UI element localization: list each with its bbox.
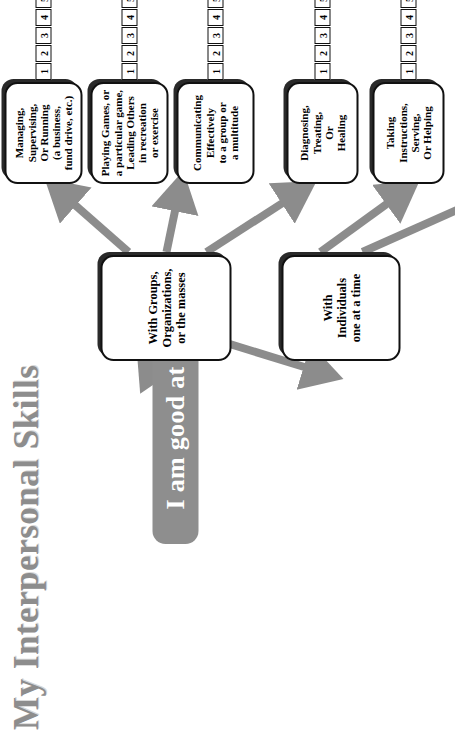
skill-node-managing: Managing,Supervising,Or Running(a busine… <box>4 82 82 184</box>
skill-communicating-label: CommunicatingEffectivelyto a group ora m… <box>190 91 239 175</box>
rating-cell-diagnosing-1[interactable]: 1 <box>314 63 330 80</box>
root-node-label: I am good at <box>160 367 190 510</box>
rating-cell-managing-4[interactable]: 4 <box>35 9 51 26</box>
rating-scale-taking-instructions[interactable]: 1234567 <box>400 0 416 80</box>
rating-cell-managing-1[interactable]: 1 <box>35 63 51 80</box>
rating-cell-playing-games-2[interactable]: 2 <box>121 45 137 62</box>
rating-cell-playing-games-5[interactable]: 5 <box>121 0 137 8</box>
rating-cell-diagnosing-3[interactable]: 3 <box>314 27 330 44</box>
skill-node-communicating: CommunicatingEffectivelyto a group ora m… <box>176 82 254 184</box>
rating-cell-taking-instructions-5[interactable]: 5 <box>400 0 416 8</box>
skill-diagnosing-label: Diagnosing,Treating,OrHealing <box>297 101 346 164</box>
skill-node-taking-instructions: TakingInstructions,Serving,Or Helping <box>372 82 444 184</box>
rating-cell-diagnosing-2[interactable]: 2 <box>314 45 330 62</box>
rating-scale-playing-games[interactable]: 1234567 <box>121 0 137 80</box>
rating-cell-taking-instructions-3[interactable]: 3 <box>400 27 416 44</box>
rating-scale-diagnosing[interactable]: 1234567 <box>314 0 330 80</box>
rating-cell-playing-games-3[interactable]: 3 <box>121 27 137 44</box>
skill-node-playing-games: Playing Games, ora particular game,Leadi… <box>90 82 168 184</box>
diagram-canvas: My Interpersonal Skills I am good at Wit… <box>0 0 455 744</box>
rating-cell-communicating-2[interactable]: 2 <box>207 45 223 62</box>
page-title: My Interpersonal Skills <box>6 365 46 730</box>
rating-cell-communicating-3[interactable]: 3 <box>207 27 223 44</box>
category-groups-label: With Groups,Organizations,or the masses <box>145 265 187 352</box>
rating-cell-playing-games-4[interactable]: 4 <box>121 9 137 26</box>
category-individuals-label: WithIndividualsone at a time <box>320 270 362 346</box>
rating-cell-diagnosing-5[interactable]: 5 <box>314 0 330 8</box>
rating-cell-managing-3[interactable]: 3 <box>35 27 51 44</box>
poster-rotation-wrapper: My Interpersonal Skills I am good at Wit… <box>0 0 455 744</box>
root-node-i-am-good-at: I am good at <box>152 332 198 544</box>
rating-cell-communicating-4[interactable]: 4 <box>207 9 223 26</box>
rating-cell-managing-5[interactable]: 5 <box>35 0 51 8</box>
category-node-individuals: WithIndividualsone at a time <box>281 255 400 361</box>
rating-cell-playing-games-1[interactable]: 1 <box>121 63 137 80</box>
rating-cell-managing-2[interactable]: 2 <box>35 45 51 62</box>
rating-cell-taking-instructions-1[interactable]: 1 <box>400 63 416 80</box>
skill-playing-games-label: Playing Games, ora particular game,Leadi… <box>98 86 160 180</box>
skill-managing-label: Managing,Supervising,Or Running(a busine… <box>12 92 74 175</box>
rating-cell-taking-instructions-2[interactable]: 2 <box>400 45 416 62</box>
rating-scale-managing[interactable]: 1234567 <box>35 0 51 80</box>
rating-cell-taking-instructions-4[interactable]: 4 <box>400 9 416 26</box>
rating-scale-communicating[interactable]: 1234567 <box>207 0 223 80</box>
rating-cell-communicating-1[interactable]: 1 <box>207 63 223 80</box>
rating-cell-communicating-5[interactable]: 5 <box>207 0 223 8</box>
category-node-groups: With Groups,Organizations,or the masses <box>100 255 231 361</box>
skill-taking-instructions-label: TakingInstructions,Serving,Or Helping <box>383 99 432 167</box>
rating-cell-diagnosing-4[interactable]: 4 <box>314 9 330 26</box>
skill-node-diagnosing: Diagnosing,Treating,OrHealing <box>286 82 358 184</box>
